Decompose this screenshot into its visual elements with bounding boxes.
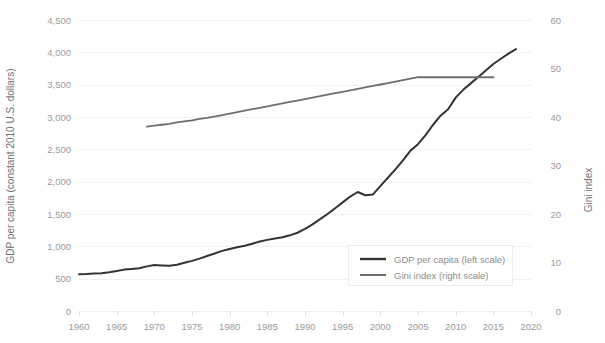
x-axis-tick-label: 1975 [181,321,202,332]
y-axis-right-tick-label: 40 [550,112,561,123]
y-left-tick-labels: 05001,0001,5002,0002,5003,0003,5004,0004… [47,15,71,317]
y-axis-right-tick-label: 50 [550,63,561,74]
y-axis-left-tick-label: 0 [66,306,71,317]
y-right-tick-labels: 0102030405060 [550,15,561,317]
x-axis-tick-label: 2005 [407,321,428,332]
y-axis-left-tick-label: 1,000 [47,241,71,252]
x-axis-tick-label: 2000 [370,321,391,332]
x-axis-tick-label: 1995 [332,321,353,332]
y-axis-left-tick-label: 1,500 [47,209,71,220]
y-axis-right-title: Gini index [583,168,594,212]
x-axis-tick-label: 1985 [257,321,278,332]
y-axis-right-tick-label: 10 [550,257,561,268]
x-axis-tick-label: 2020 [520,321,541,332]
x-axis-tick-label: 2015 [483,321,504,332]
y-axis-right-tick-label: 0 [556,306,561,317]
y-axis-left-title: GDP per capita (constant 2010 U.S. dolla… [5,69,16,264]
y-axis-right-tick-label: 30 [550,160,561,171]
y-axis-left-tick-label: 4,500 [47,15,71,26]
y-axis-left-tick-label: 2,000 [47,176,71,187]
x-axis-tick-label: 1960 [68,321,89,332]
legend-label: Gini index (right scale) [394,270,489,281]
y-axis-right-tick-label: 60 [550,15,561,26]
y-axis-left-tick-label: 2,500 [47,144,71,155]
y-axis-left-tick-label: 3,000 [47,112,71,123]
y-axis-left-tick-label: 4,000 [47,47,71,58]
y-axis-left-tick-label: 500 [55,273,71,284]
x-axis-tick-label: 1990 [294,321,315,332]
x-axis-tick-label: 1965 [106,321,127,332]
dual-axis-line-chart: 05001,0001,5002,0002,5003,0003,5004,0004… [0,0,605,343]
x-axis-tick-label: 2010 [445,321,466,332]
series-line-gdp-per-capita [79,49,516,274]
series-group [79,49,516,274]
x-axis-tick-label: 1980 [219,321,240,332]
legend-label: GDP per capita (left scale) [394,254,505,265]
y-axis-left-tick-label: 3,500 [47,79,71,90]
x-tick-labels: 1960196519701975198019851990199520002005… [68,321,541,332]
legend: GDP per capita (left scale)Gini index (r… [349,246,513,286]
series-line-gini-index [147,77,494,126]
y-axis-right-tick-label: 20 [550,209,561,220]
x-axis-tick-label: 1970 [144,321,165,332]
chart-container: 05001,0001,5002,0002,5003,0003,5004,0004… [0,0,605,343]
